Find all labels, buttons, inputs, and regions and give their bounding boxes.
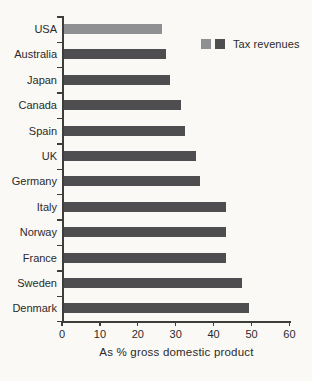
legend-swatch-dark: [215, 39, 225, 49]
category-label: Norway: [0, 225, 57, 239]
y-axis-tick: [57, 270, 62, 271]
category-label: UK: [0, 149, 57, 163]
x-tick-label: 0: [50, 328, 74, 340]
bar-japan: [64, 75, 170, 85]
bar-denmark: [64, 303, 250, 313]
tax-revenues-bar-chart: USAAustraliaJapanCanadaSpainUKGermanyIta…: [0, 0, 312, 381]
category-label: Japan: [0, 73, 57, 87]
bar-uk: [64, 151, 197, 161]
x-axis-tick: [175, 321, 176, 326]
x-axis-tick: [99, 321, 100, 326]
bar-canada: [64, 100, 181, 110]
bar-sweden: [64, 278, 242, 288]
y-axis: [62, 16, 64, 322]
y-axis-tick: [57, 67, 62, 68]
x-axis-tick: [213, 321, 214, 326]
category-label: Canada: [0, 98, 57, 112]
x-axis-tick: [251, 321, 252, 326]
legend-label: Tax revenues: [233, 38, 300, 50]
y-axis-tick: [57, 194, 62, 195]
y-axis-tick: [57, 245, 62, 246]
category-label: Italy: [0, 200, 57, 214]
bar-usa: [64, 24, 163, 34]
x-tick-label: 10: [88, 328, 112, 340]
bar-australia: [64, 49, 166, 59]
bar-france: [64, 253, 227, 263]
y-axis-tick: [57, 16, 62, 17]
bar-norway: [64, 227, 227, 237]
x-tick-label: 20: [126, 328, 150, 340]
y-axis-tick: [57, 118, 62, 119]
x-axis-tick: [137, 321, 138, 326]
chart-legend: Tax revenues: [201, 38, 300, 50]
y-axis-tick: [57, 92, 62, 93]
category-label: Denmark: [0, 301, 57, 315]
category-label: Australia: [0, 47, 57, 61]
x-axis-title: As % gross domestic product: [62, 346, 291, 358]
x-axis-tick: [61, 321, 62, 326]
category-label: Germany: [0, 174, 57, 188]
x-tick-label: 30: [164, 328, 188, 340]
x-axis-tick: [289, 321, 290, 326]
plot-area: USAAustraliaJapanCanadaSpainUKGermanyIta…: [0, 0, 312, 381]
bar-spain: [64, 126, 185, 136]
category-label: Sweden: [0, 276, 57, 290]
x-tick-label: 50: [240, 328, 264, 340]
x-tick-label: 60: [277, 328, 301, 340]
x-tick-label: 40: [202, 328, 226, 340]
category-label: USA: [0, 22, 57, 36]
y-axis-tick: [57, 143, 62, 144]
y-axis-tick: [57, 42, 62, 43]
category-label: France: [0, 251, 57, 265]
y-axis-tick: [57, 169, 62, 170]
category-label: Spain: [0, 124, 57, 138]
legend-swatch-light: [201, 39, 211, 49]
y-axis-tick: [57, 296, 62, 297]
y-axis-tick: [57, 219, 62, 220]
bar-germany: [64, 176, 200, 186]
bar-italy: [64, 202, 227, 212]
